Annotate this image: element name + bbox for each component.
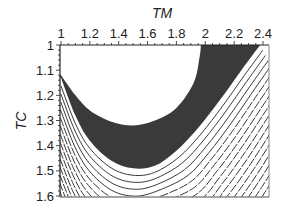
- svg-text:TM: TM: [152, 5, 173, 21]
- y-tick-label: 1.4: [36, 138, 54, 153]
- x-tick-label: 1: [57, 26, 64, 41]
- y-tick-labels: 11.11.21.31.41.51.6: [36, 38, 54, 204]
- x-tick-label: 2.2: [225, 26, 243, 41]
- plot-area: [58, 40, 290, 215]
- y-tick-label: 1.2: [36, 88, 54, 103]
- x-tick-label: 1.6: [139, 26, 157, 41]
- x-tick-labels: 11.21.41.61.822.22.4: [57, 26, 272, 41]
- x-tick-label: 1.8: [167, 26, 185, 41]
- x-tick-label: 1.4: [110, 26, 128, 41]
- x-tick-label: 2.4: [254, 26, 272, 41]
- y-tick-label: 1.1: [36, 63, 54, 78]
- contour-chart: TM TC 11.21.41.61.822.22.4 11.11.21.31.4…: [0, 0, 290, 215]
- x-tick-label: 2: [202, 26, 209, 41]
- svg-text:TC: TC: [13, 111, 29, 131]
- x-axis-title: TM: [152, 5, 173, 21]
- y-tick-label: 1.3: [36, 113, 54, 128]
- y-tick-label: 1.6: [36, 189, 54, 204]
- y-axis-title: TC: [13, 111, 29, 131]
- x-tick-label: 1.2: [81, 26, 99, 41]
- y-tick-label: 1.5: [36, 163, 54, 178]
- y-tick-label: 1: [47, 38, 54, 53]
